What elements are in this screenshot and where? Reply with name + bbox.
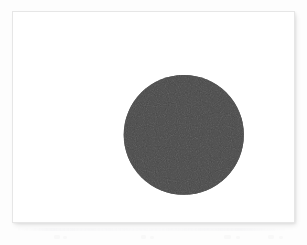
ghost-mark (236, 236, 240, 239)
ghost-mark (54, 235, 60, 239)
scan-ghost-strip (0, 228, 307, 245)
plot-surface (13, 12, 294, 222)
ghost-mark (279, 236, 283, 239)
ghost-mark (224, 235, 231, 239)
figure-root (0, 0, 307, 245)
ghost-band (18, 228, 290, 231)
ghost-mark (150, 236, 154, 239)
ghost-mark (268, 235, 274, 239)
data-series-filled-circle (124, 75, 244, 195)
ghost-mark (63, 236, 67, 239)
plot-canvas (13, 12, 294, 222)
ghost-mark (141, 235, 146, 239)
figure-panel (12, 11, 295, 223)
solid-dark-circle-texture (124, 75, 244, 195)
